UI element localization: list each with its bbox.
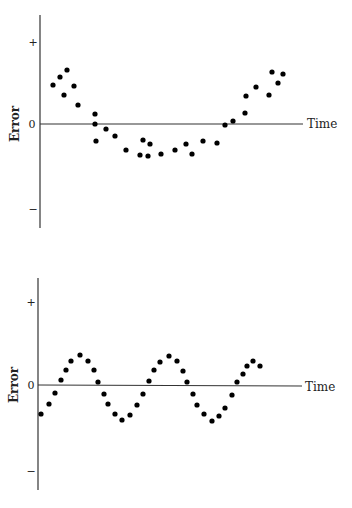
data-point bbox=[184, 379, 189, 384]
data-point bbox=[61, 92, 66, 97]
data-point bbox=[151, 367, 156, 372]
y-tick-plus: + bbox=[28, 36, 37, 49]
data-point bbox=[46, 401, 51, 406]
data-point bbox=[158, 151, 163, 156]
data-point bbox=[127, 412, 132, 417]
data-point bbox=[71, 83, 76, 88]
chart-bottom: + 0 − Error Time bbox=[7, 278, 335, 490]
data-point bbox=[166, 353, 171, 358]
data-point bbox=[75, 102, 80, 107]
data-point bbox=[250, 358, 255, 363]
x-axis-label: Time bbox=[305, 380, 335, 394]
data-point bbox=[140, 137, 145, 142]
data-point bbox=[119, 417, 124, 422]
data-point bbox=[214, 140, 219, 145]
data-point bbox=[137, 152, 142, 157]
data-point bbox=[180, 368, 185, 373]
data-point bbox=[145, 153, 150, 158]
data-point bbox=[244, 363, 249, 368]
data-point bbox=[222, 405, 227, 410]
data-point bbox=[242, 110, 247, 115]
y-axis-label: Error bbox=[8, 105, 22, 142]
data-point bbox=[64, 67, 69, 72]
data-point bbox=[194, 402, 199, 407]
data-point bbox=[157, 359, 162, 364]
x-axis-label: Time bbox=[307, 117, 337, 131]
data-point bbox=[257, 363, 262, 368]
data-point bbox=[63, 367, 68, 372]
y-tick-plus: + bbox=[26, 296, 35, 309]
data-point bbox=[101, 391, 106, 396]
y-tick-zero: 0 bbox=[29, 118, 36, 131]
data-point bbox=[269, 69, 274, 74]
data-point bbox=[91, 367, 96, 372]
data-point bbox=[146, 378, 151, 383]
data-point bbox=[174, 358, 179, 363]
chart-canvas: + 0 − Error Time + 0 − Error Time bbox=[0, 0, 352, 508]
data-point bbox=[216, 413, 221, 418]
data-point bbox=[189, 151, 194, 156]
data-point bbox=[50, 82, 55, 87]
data-point bbox=[209, 418, 214, 423]
data-point bbox=[112, 411, 117, 416]
data-point bbox=[103, 126, 108, 131]
data-point bbox=[93, 138, 98, 143]
data-point bbox=[280, 71, 285, 76]
data-point bbox=[222, 122, 227, 127]
data-point bbox=[190, 391, 195, 396]
data-point bbox=[234, 379, 239, 384]
data-point bbox=[95, 379, 100, 384]
data-point bbox=[275, 80, 280, 85]
y-tick-minus: − bbox=[26, 465, 35, 478]
data-point bbox=[240, 371, 245, 376]
data-points bbox=[50, 67, 285, 158]
x-axis bbox=[38, 385, 302, 386]
data-point bbox=[92, 111, 97, 116]
data-point bbox=[134, 402, 139, 407]
data-point bbox=[38, 411, 43, 416]
data-point bbox=[243, 93, 248, 98]
data-point bbox=[200, 138, 205, 143]
chart-top: + 0 − Error Time bbox=[8, 15, 337, 228]
y-axis-label: Error bbox=[7, 366, 21, 403]
data-point bbox=[230, 118, 235, 123]
data-point bbox=[77, 352, 82, 357]
data-point bbox=[105, 401, 110, 406]
y-tick-zero: 0 bbox=[28, 379, 35, 392]
data-point bbox=[52, 390, 57, 395]
data-points bbox=[38, 352, 262, 423]
data-point bbox=[112, 133, 117, 138]
data-point bbox=[123, 147, 128, 152]
data-point bbox=[85, 358, 90, 363]
y-tick-minus: − bbox=[28, 203, 37, 216]
data-point bbox=[57, 74, 62, 79]
data-point bbox=[253, 84, 258, 89]
data-point bbox=[147, 141, 152, 146]
data-point bbox=[183, 141, 188, 146]
data-point bbox=[140, 391, 145, 396]
data-point bbox=[201, 411, 206, 416]
data-point bbox=[172, 147, 177, 152]
data-point bbox=[68, 358, 73, 363]
data-point bbox=[229, 392, 234, 397]
data-point bbox=[92, 121, 97, 126]
data-point bbox=[266, 92, 271, 97]
data-point bbox=[58, 377, 63, 382]
